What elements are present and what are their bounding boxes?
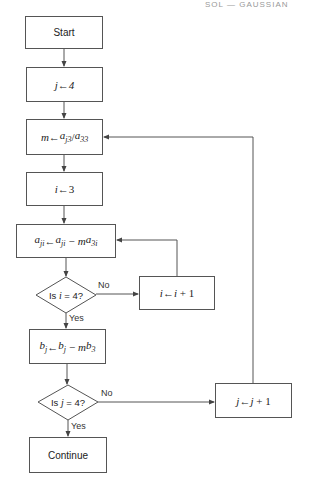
decision-i-yes-label: Yes — [69, 313, 84, 323]
decision-j-node: Is j = 4? — [38, 385, 98, 420]
decision-j-no-label: No — [101, 388, 113, 398]
decision-j-yes-label: Yes — [71, 421, 86, 431]
minus-sign: − — [69, 235, 75, 247]
update-b-node: bj ← bj − mb3 — [29, 329, 106, 364]
increment-j-node: j ← j + 1 — [215, 383, 292, 418]
assign-arrow-icon: ← — [58, 79, 69, 91]
term-sub: 3i — [91, 240, 97, 249]
decision-j-rest: = 4? — [64, 397, 85, 408]
continue-label: Continue — [48, 450, 88, 461]
start-node: Start — [25, 16, 103, 49]
init-i-node: i ← 3 — [26, 172, 103, 206]
inc-i-expr-rest: + 1 — [177, 287, 194, 299]
compute-m-num: aj3 — [60, 129, 72, 144]
decision-i-prefix: Is — [49, 290, 59, 301]
increment-i-node: i ← i + 1 — [139, 276, 215, 310]
decision-j-prefix: Is — [51, 397, 61, 408]
update-a-m: m — [78, 235, 86, 247]
update-a-rhs: aji — [56, 233, 66, 248]
compute-m-lhs: m — [41, 131, 49, 143]
assign-arrow-icon: ← — [45, 235, 56, 247]
flowchart: SOL — GAUSSIAN — [0, 0, 309, 487]
den-sub: 33 — [80, 136, 88, 145]
assign-arrow-icon: ← — [58, 183, 69, 195]
update-a-lhs: aji — [35, 233, 45, 248]
term-sub: 3 — [92, 345, 96, 354]
rhs-sub: ji — [61, 240, 65, 249]
rhs-sub: j — [64, 345, 66, 354]
assign-arrow-icon: ← — [163, 287, 174, 299]
compute-m-node: m ← aj3 / a33 — [26, 119, 103, 155]
update-b-m: m — [78, 341, 86, 353]
init-j-value: 4 — [69, 79, 75, 91]
update-b-rhs: bj — [58, 339, 66, 354]
decision-i-node: Is i = 4? — [36, 277, 96, 313]
continue-node: Continue — [29, 437, 107, 473]
update-b-term: b3 — [86, 339, 96, 354]
start-label: Start — [53, 27, 74, 38]
decision-i-rest: = 4? — [62, 290, 83, 301]
init-i-value: 3 — [69, 183, 75, 195]
update-b-lhs: bj — [39, 339, 47, 354]
assign-arrow-icon: ← — [239, 395, 250, 407]
compute-m-den: a33 — [75, 129, 89, 144]
inc-j-expr-rest: + 1 — [253, 395, 270, 407]
assign-arrow-icon: ← — [47, 341, 58, 353]
decision-i-no-label: No — [98, 280, 110, 290]
update-a-node: aji ← aji − ma3i — [16, 224, 116, 258]
minus-sign: − — [69, 341, 75, 353]
assign-arrow-icon: ← — [49, 131, 60, 143]
update-a-term: a3i — [86, 233, 98, 248]
init-j-node: j ← 4 — [26, 67, 103, 102]
